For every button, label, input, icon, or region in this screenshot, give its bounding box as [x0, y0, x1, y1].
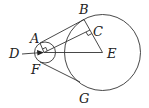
- d-arrow-line: [22, 53, 38, 54]
- geometry-diagram: B C A D E F G: [0, 0, 149, 108]
- segment-center-c: [44, 30, 90, 53]
- label-g: G: [79, 91, 89, 106]
- label-d: D: [8, 46, 20, 61]
- tangent-line-ab: [40, 20, 84, 44]
- label-b: B: [78, 2, 89, 17]
- label-a: A: [29, 31, 39, 46]
- tangent-line-fg: [40, 62, 80, 82]
- label-c: C: [93, 24, 103, 39]
- label-f: F: [30, 62, 41, 77]
- label-e: E: [106, 46, 117, 61]
- small-radius-a: [40, 43, 44, 53]
